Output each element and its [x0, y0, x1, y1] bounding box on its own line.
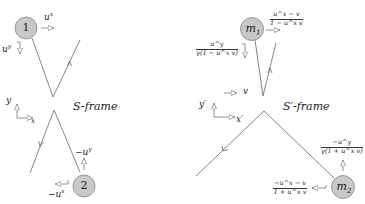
ball1-incoming-path [32, 38, 53, 97]
m2-vx-fraction: −u^x − v 1 + u^x v [273, 180, 307, 196]
s-frame-label: S-frame [73, 101, 117, 112]
s-prime-frame-label: S′-frame [283, 101, 330, 112]
m2-outgoing-path [196, 111, 264, 176]
m1-vy-arrow-icon [242, 44, 245, 58]
x-axis-label: x [31, 118, 35, 125]
ball1-label: 1 [20, 22, 32, 33]
m1-vy-fraction: u^y γ(1 − u^x v) [196, 41, 238, 57]
ball1-vx-label: ux [44, 11, 53, 22]
ball2-label: 2 [78, 180, 90, 191]
m2-label: m2 [333, 181, 355, 195]
ball2-incoming-path [54, 110, 80, 172]
y-axis-label: y [6, 96, 11, 105]
m1-vx-fraction: u^x − v 1 − u^x v [270, 11, 303, 27]
trajectory-arrow-icon [68, 61, 72, 66]
ball2-vy-label: −uy [75, 146, 92, 157]
ball1-vy-label: uy [2, 43, 11, 54]
x-prime-axis-label: x′ [236, 115, 243, 124]
ball2-vx-label: −ux [48, 188, 65, 199]
m1-incoming-path [255, 40, 263, 96]
y-prime-axis-label: y′ [199, 100, 206, 109]
m2-vx-arrow-icon [312, 185, 326, 188]
boost-v-label: v [243, 87, 248, 96]
ball1-vy-arrow-icon [17, 42, 20, 54]
ball1-outgoing-path [53, 40, 80, 97]
m1-label: m1 [242, 23, 264, 37]
ball2-vx-arrow-icon [55, 180, 68, 184]
trajectory-arrow-icon [268, 68, 272, 73]
m2-vy-fraction: −u^y γ(1 + u^x v) [321, 139, 363, 155]
